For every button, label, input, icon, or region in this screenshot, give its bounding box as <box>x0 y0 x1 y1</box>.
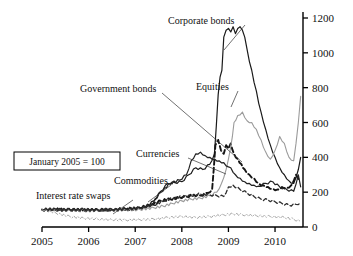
series-label-interest-rate-swaps: Interest rate swaps <box>36 190 111 201</box>
chart-container: 0200400600800100012002005200620072008200… <box>0 0 353 256</box>
series-label-commodities: Commodities <box>114 175 168 186</box>
series-label-corporate-bonds: Corporate bonds <box>168 15 234 26</box>
series-label-government-bonds: Government bonds <box>80 83 156 94</box>
x-tick-label: 2006 <box>78 235 101 247</box>
annotation-text: January 2005 = 100 <box>29 157 105 167</box>
y-tick-label: 1000 <box>312 47 335 59</box>
x-tick-label: 2010 <box>264 235 287 247</box>
financial-index-line-chart: 0200400600800100012002005200620072008200… <box>0 0 353 256</box>
series-label-currencies: Currencies <box>136 148 179 159</box>
y-tick-label: 600 <box>312 117 329 129</box>
y-tick-label: 200 <box>312 186 329 198</box>
leader-line <box>188 158 226 174</box>
y-tick-label: 800 <box>312 82 329 94</box>
x-tick-label: 2007 <box>124 235 147 247</box>
y-tick-label: 400 <box>312 151 329 163</box>
y-tick-label: 1200 <box>312 12 335 24</box>
x-tick-label: 2005 <box>31 235 54 247</box>
y-tick-label: 0 <box>312 221 318 233</box>
x-tick-label: 2008 <box>171 235 194 247</box>
leader-line <box>231 91 238 107</box>
series-label-equities: Equities <box>196 81 229 92</box>
x-tick-label: 2009 <box>217 235 240 247</box>
